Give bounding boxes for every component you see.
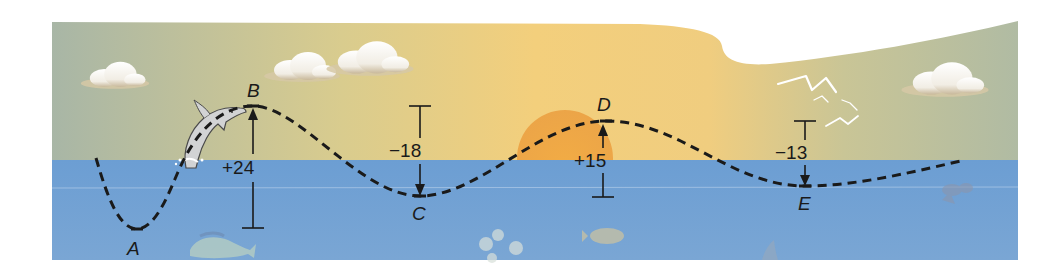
change-value-b-to-c: −18: [389, 140, 421, 162]
point-label-a: A: [127, 238, 140, 260]
point-label-c: C: [412, 203, 426, 225]
point-label-b: B: [247, 80, 260, 102]
change-value-c-to-d: +15: [574, 150, 606, 172]
point-label-e: E: [798, 193, 811, 215]
dolphin-path-diagram: [0, 0, 1061, 276]
point-label-d: D: [597, 94, 611, 116]
change-value-a-to-b: +24: [222, 157, 254, 179]
change-value-d-to-e: −13: [775, 142, 807, 164]
